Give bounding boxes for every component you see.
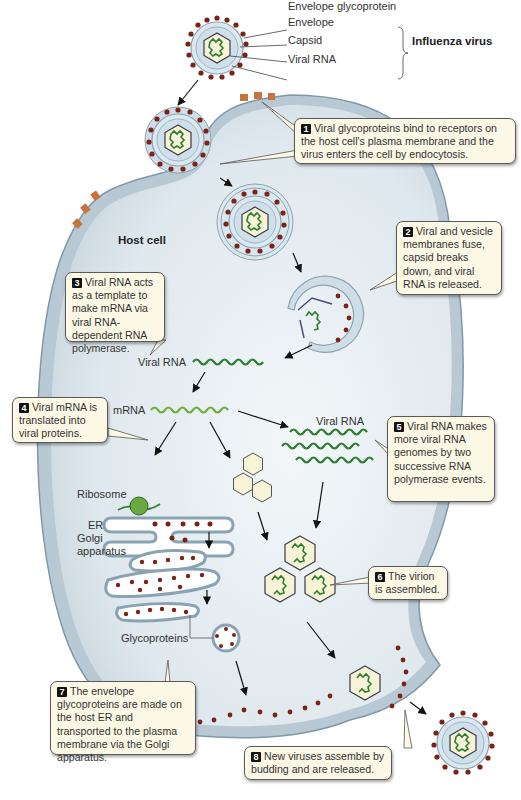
step-text: Viral mRNA is translated into viral prot… xyxy=(19,401,97,439)
callout-step-8: 8New viruses assemble by budding and are… xyxy=(244,746,392,780)
step-text: Viral and vesicle membranes fuse, capsid… xyxy=(403,225,493,290)
step-text: Viral RNA makes more viral RNA genomes b… xyxy=(394,420,487,485)
legend-capsid: Capsid xyxy=(288,34,322,47)
legend-envelope: Envelope xyxy=(288,16,334,29)
label-viral-rna: Viral RNA xyxy=(138,356,186,369)
step-number-badge: 5 xyxy=(394,422,404,432)
step-number-badge: 7 xyxy=(57,687,67,697)
label-golgi-line2: apparatus xyxy=(77,545,126,558)
step-number-badge: 4 xyxy=(19,403,29,413)
label-glycoproteins: Glycoproteins xyxy=(121,632,188,645)
callout-step-2: 2Viral and vesicle membranes fuse, capsi… xyxy=(396,221,502,295)
callout-step-6: 6The virion is assembled. xyxy=(368,566,448,600)
label-ribosome: Ribosome xyxy=(77,488,127,501)
step-text: Viral glycoproteins bind to receptors on… xyxy=(301,122,497,160)
legend-viral-rna: Viral RNA xyxy=(288,53,336,66)
legend-group-influenza-virus: Influenza virus xyxy=(412,35,493,48)
label-mrna: mRNA xyxy=(113,404,145,417)
step-text: The envelope glycoproteins are made on t… xyxy=(57,685,182,763)
callout-step-7: 7The envelope glycoproteins are made on … xyxy=(50,681,196,755)
label-viral-rna-genomes: Viral RNA xyxy=(316,415,364,428)
callout-step-1: 1Viral glycoproteins bind to receptors o… xyxy=(294,118,516,164)
step-number-badge: 6 xyxy=(375,572,385,582)
label-host-cell: Host cell xyxy=(118,234,166,247)
callout-step-3: 3Viral RNA acts as a template to make mR… xyxy=(65,272,165,342)
step-number-badge: 2 xyxy=(403,227,413,237)
label-golgi-line1: Golgi xyxy=(77,532,103,545)
step-number-badge: 8 xyxy=(251,752,261,762)
callout-step-4: 4Viral mRNA is translated into viral pro… xyxy=(12,397,108,443)
step-text: New viruses assemble by budding and are … xyxy=(251,750,384,775)
label-er: ER xyxy=(88,519,103,532)
step-number-badge: 3 xyxy=(72,278,82,288)
callout-step-5: 5Viral RNA makes more viral RNA genomes … xyxy=(387,416,495,502)
legend-envelope-glycoprotein: Envelope glycoprotein xyxy=(288,0,396,13)
step-number-badge: 1 xyxy=(301,124,311,134)
